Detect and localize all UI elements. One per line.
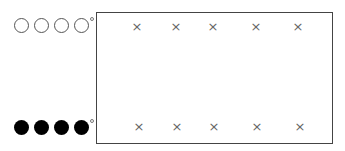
open-circle-icon xyxy=(14,18,29,33)
cross-mark-icon: × xyxy=(208,20,219,33)
filled-circle-icon xyxy=(74,120,89,135)
open-circle-icon xyxy=(74,18,89,33)
filled-circle-icon xyxy=(34,120,49,135)
degree-mark-icon xyxy=(90,17,94,21)
cross-mark-icon: × xyxy=(132,20,143,33)
cross-mark-icon: × xyxy=(251,20,262,33)
filled-circle-icon xyxy=(14,120,29,135)
open-circle-icon xyxy=(34,18,49,33)
cross-mark-icon: × xyxy=(171,20,182,33)
filled-circle-icon xyxy=(54,120,69,135)
cross-mark-icon: × xyxy=(172,120,183,133)
cross-mark-icon: × xyxy=(293,20,304,33)
degree-mark-icon xyxy=(90,119,94,123)
cross-mark-icon: × xyxy=(295,120,306,133)
cross-mark-icon: × xyxy=(252,120,263,133)
cross-mark-icon: × xyxy=(209,120,220,133)
cross-mark-icon: × xyxy=(134,120,145,133)
open-circle-icon xyxy=(54,18,69,33)
